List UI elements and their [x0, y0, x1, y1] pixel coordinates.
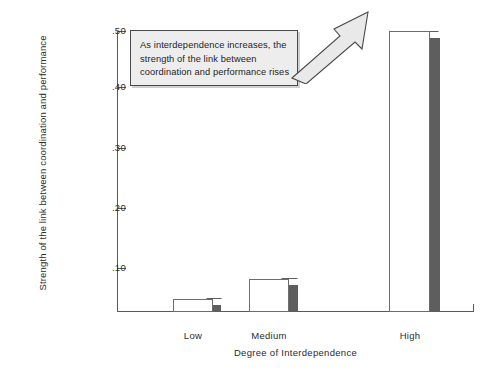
y-tick-40: .40: [76, 87, 126, 88]
bar-shadow-medium: [289, 285, 298, 312]
y-axis-title: Strength of the link between coordinatio…: [37, 51, 48, 291]
bar-low: [173, 299, 213, 312]
y-tick-10: .10: [76, 268, 126, 269]
x-axis-title: Degree of Interdependence: [117, 347, 474, 358]
annotation-callout-text: As interdependence increases, the streng…: [140, 39, 292, 80]
annotation-line-1: As interdependence increases, the: [140, 39, 292, 53]
y-tick-30: .30: [76, 148, 126, 149]
bar-high: [389, 31, 430, 312]
annotation-line-3: coordination and performance rises: [140, 66, 292, 80]
bar-shadow-low: [213, 305, 221, 312]
y-tick-20: .20: [76, 208, 126, 209]
y-tick-label-40: .40: [92, 81, 126, 92]
y-tick-label-50: .50: [92, 25, 126, 36]
bar-shadow-high: [430, 38, 440, 312]
category-label-high: High: [355, 330, 465, 341]
annotation-callout-box: As interdependence increases, the streng…: [130, 30, 298, 86]
annotation-arrow-icon: [290, 8, 380, 84]
y-tick-label-30: .30: [92, 142, 126, 153]
y-tick-50: .50: [76, 31, 126, 32]
y-tick-label-10: .10: [92, 262, 126, 273]
x-axis-end-cap: [473, 304, 474, 312]
annotation-line-2: strength of the link between: [140, 53, 292, 67]
category-label-medium: Medium: [214, 330, 324, 341]
chart-figure: .50 .40 .30 .20 .10 Strength of the link…: [0, 0, 492, 379]
bar-medium: [249, 279, 289, 312]
y-tick-label-20: .20: [92, 202, 126, 213]
